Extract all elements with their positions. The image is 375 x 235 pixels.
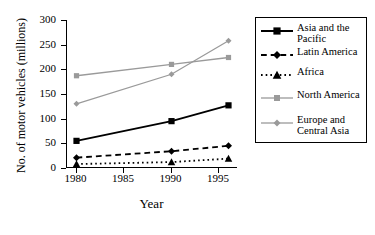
plot-area (66, 20, 237, 168)
legend-item[interactable]: Latin America (260, 48, 364, 68)
series-line (77, 146, 229, 158)
legend-label-line2: Central Asia (297, 125, 367, 136)
legend-label-line1: North America (297, 89, 367, 100)
y-tick-label: 300 (26, 14, 56, 24)
data-point-marker (168, 118, 174, 124)
legend-item[interactable]: Asia and thePacific (260, 24, 364, 44)
chart-figure: No. of motor vehicles (millions) 0501001… (0, 0, 375, 235)
chart-legend: Asia and thePacificLatin AmericaAfricaNo… (255, 17, 367, 143)
legend-label: North America (297, 89, 367, 100)
series-1 (73, 102, 231, 144)
data-point-marker (226, 55, 231, 60)
data-point-marker (168, 158, 176, 165)
x-tick-label: 1990 (151, 172, 191, 184)
data-point-marker (226, 38, 232, 44)
legend-item[interactable]: Europe andCentral Asia (260, 116, 364, 136)
series-line (77, 159, 229, 164)
legend-label: Latin America (297, 46, 367, 57)
legend-symbol-triangle-icon (260, 68, 294, 82)
y-tick-label: 200 (26, 63, 56, 73)
series-line (77, 57, 229, 75)
legend-symbol-square-icon (260, 24, 294, 38)
y-tick-label: 100 (26, 113, 56, 123)
series-line (77, 105, 229, 141)
legend-symbol-diamond-icon (260, 48, 294, 62)
legend-symbol-square-icon (260, 91, 294, 105)
data-point-marker (74, 73, 79, 78)
x-tick-label: 1995 (198, 172, 238, 184)
legend-label: Africa (297, 66, 367, 77)
legend-label-line1: Africa (297, 66, 367, 77)
data-point-marker (273, 51, 281, 59)
data-point-marker (73, 138, 79, 144)
x-tick-label: 1985 (103, 172, 143, 184)
x-tick-label: 1980 (56, 172, 96, 184)
data-point-marker (168, 148, 175, 155)
x-tick-mark (76, 168, 77, 173)
y-tick-label: 150 (26, 88, 56, 98)
legend-label-line2: Pacific (297, 33, 367, 44)
legend-item[interactable]: Africa (260, 68, 364, 88)
data-point-marker (274, 120, 281, 127)
legend-symbol-diamond-icon (260, 116, 294, 130)
series-line (77, 41, 229, 104)
legend-label-line1: Latin America (297, 46, 367, 57)
data-point-marker (169, 71, 175, 77)
data-point-marker (169, 62, 174, 67)
data-point-marker (74, 101, 80, 107)
y-tick-mark (61, 168, 66, 169)
x-axis-title: Year (66, 196, 237, 212)
data-point-marker (273, 27, 280, 34)
legend-item[interactable]: North America (260, 91, 364, 111)
series-2 (73, 142, 232, 161)
legend-label: Europe andCentral Asia (297, 114, 367, 136)
y-tick-label: 0 (26, 162, 56, 172)
y-tick-label: 50 (26, 137, 56, 147)
data-point-marker (274, 95, 280, 101)
series-4 (74, 55, 231, 78)
data-point-marker (73, 154, 80, 161)
x-tick-mark (171, 168, 172, 173)
x-tick-mark (123, 168, 124, 173)
series-5 (74, 38, 232, 107)
x-tick-mark (218, 168, 219, 173)
data-point-marker (225, 155, 233, 162)
series-canvas (67, 20, 238, 168)
legend-label-line1: Asia and the (297, 22, 367, 33)
y-tick-label: 250 (26, 39, 56, 49)
data-point-marker (73, 160, 81, 167)
legend-label: Asia and thePacific (297, 22, 367, 44)
data-point-marker (225, 142, 232, 149)
data-point-marker (225, 102, 231, 108)
legend-label-line1: Europe and (297, 114, 367, 125)
